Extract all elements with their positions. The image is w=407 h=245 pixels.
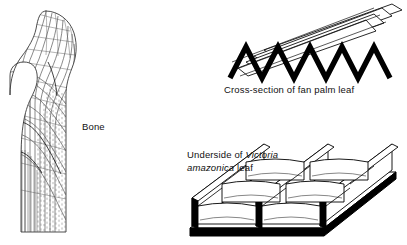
bone-diagram [0,0,130,245]
bone-label: Bone [82,121,105,133]
fan-palm-caption: Cross-section of fan palm leaf [224,84,354,96]
victoria-caption-line2: amazonica leaf [187,162,253,173]
figure-canvas: Bone [0,0,407,245]
victoria-caption-line1: Underside of Victoria [187,149,278,160]
victoria-caption-italic-1: Victoria [245,149,278,160]
victoria-caption-plain-2: leaf [237,162,253,173]
victoria-caption-plain-1: Underside of [187,149,243,160]
bone-illustration [0,0,130,245]
victoria-caption: Underside of Victoria amazonica leaf [187,149,278,174]
bone-outline [10,11,76,232]
victoria-caption-italic-2: amazonica [187,162,234,173]
